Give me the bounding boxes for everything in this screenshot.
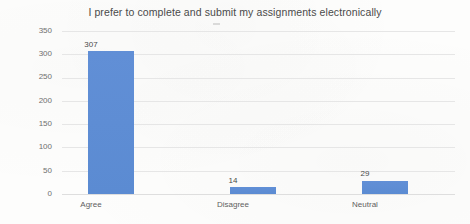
bar-neutral [362, 181, 408, 195]
x-axis-label-neutral: Neutral [332, 200, 398, 209]
bar-agree [88, 51, 134, 194]
plot-area [62, 31, 455, 194]
bar-value-neutral: 29 [342, 169, 388, 178]
y-axis-tick-200: 200 [6, 96, 52, 105]
y-axis-tick-150: 150 [6, 119, 52, 128]
gridline-0-baseline [62, 194, 455, 195]
chart-title: I prefer to complete and submit my assig… [0, 6, 470, 18]
y-axis-tick-100: 100 [6, 142, 52, 151]
scan-artifact-mark [213, 23, 220, 25]
bar-value-agree: 307 [68, 40, 114, 49]
x-axis-label-agree: Agree [58, 200, 124, 209]
y-axis-tick-350: 350 [6, 26, 52, 35]
x-axis-label-disagree: Disagree [200, 200, 266, 209]
bar-chart: I prefer to complete and submit my assig… [0, 0, 470, 224]
y-axis-tick-0: 0 [6, 189, 52, 198]
y-axis-tick-50: 50 [6, 166, 52, 175]
bar-value-disagree: 14 [210, 176, 256, 185]
y-axis-tick-250: 250 [6, 72, 52, 81]
gridline-350 [62, 31, 455, 32]
y-axis-tick-300: 300 [6, 49, 52, 58]
bar-disagree [230, 187, 276, 194]
